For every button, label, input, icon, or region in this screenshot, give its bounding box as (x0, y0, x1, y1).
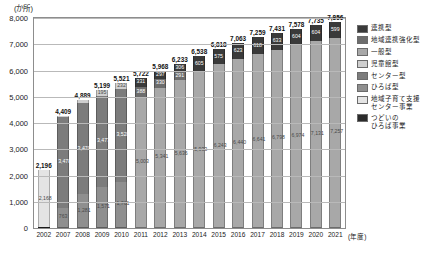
segment-value-label: 763 (58, 215, 68, 220)
bar-2021[interactable]: 7,2575997,856 (329, 22, 341, 228)
x-tick-label-2015: 2015 (211, 231, 226, 238)
gridline (34, 44, 345, 45)
bar-total-label: 5,199 (89, 82, 115, 89)
chart-root: (か所) 8,0007,0006,0005,0004,0003,0002,000… (0, 0, 441, 254)
bar-2011[interactable]: 5,0033883315,722 (135, 78, 147, 228)
x-axis-unit-label: (年度) (348, 231, 366, 241)
segment-value-label: 291 (175, 74, 185, 79)
bar-segment-連携型: 604 (290, 29, 302, 45)
segment-value-label: 6,440 (233, 140, 243, 145)
bar-total-label: 2,196 (31, 162, 57, 169)
segment-value-label: 388 (136, 89, 146, 94)
bar-segment-ひろば型: 763 (57, 208, 69, 228)
legend-swatch-icon (357, 25, 368, 33)
x-tick-label-2011: 2011 (134, 231, 148, 238)
legend-item-3[interactable]: 児童館型 (357, 60, 441, 69)
bar-2010[interactable]: 1,7613,5282325,521 (115, 83, 127, 228)
segment-value-label: 575 (214, 54, 224, 59)
legend-item-6[interactable]: 地域子育て支援 センター事業 (357, 95, 441, 110)
bar-2018[interactable]: 6,7986337,431 (271, 33, 283, 228)
bar-segment-ひろば型: 1,571 (96, 187, 108, 228)
legend-item-0[interactable]: 連携型 (357, 24, 441, 33)
x-tick-label-2013: 2013 (172, 231, 187, 238)
segment-value-label: 599 (330, 27, 340, 32)
segment-value-label: 2,168 (39, 196, 49, 201)
bar-2020[interactable]: 7,1316047,735 (310, 25, 322, 228)
bar-segment-連携型: 633 (271, 33, 283, 50)
legend-item-1[interactable]: 地域連携強化型 (357, 36, 441, 45)
legend-label: 一般型 (371, 48, 392, 56)
legend-label: 児童館型 (371, 60, 399, 68)
bar-segment-児童館型: 28 (57, 116, 69, 117)
bar-segment-一般型: 6,974 (290, 45, 302, 228)
segment-value-label: 1,571 (97, 204, 107, 209)
legend-item-4[interactable]: センター型 (357, 72, 441, 81)
gridline (34, 202, 345, 203)
segment-value-label: 7,257 (330, 130, 340, 135)
segment-value-label: 6,243 (214, 143, 224, 148)
legend-swatch-icon (357, 72, 368, 80)
x-tick-label-2021: 2021 (328, 231, 343, 238)
legend-swatch-icon (357, 60, 368, 68)
bar-segment-一般型: 7,257 (329, 38, 341, 228)
y-tick-label: 8,000 (9, 14, 28, 23)
segment-value-label: 1,281 (78, 208, 88, 213)
bar-segment-一般型: 5,003 (135, 97, 147, 228)
x-tick-label-2012: 2012 (153, 231, 168, 238)
x-tick-label-2020: 2020 (309, 231, 324, 238)
bar-segment-センター型: 3,478 (57, 117, 69, 208)
bar-2007[interactable]: 7633,478284,409 (57, 116, 69, 228)
legend-item-5[interactable]: ひろば型 (357, 83, 441, 92)
y-tick-label: 7,000 (9, 40, 28, 49)
y-tick-label: 6,000 (9, 66, 28, 75)
bar-total-label: 6,538 (186, 48, 212, 55)
segment-value-label: 5,636 (175, 151, 185, 156)
x-axis-tick-labels: 2002200720082009201020112012201320142015… (0, 231, 360, 245)
segment-value-label: 605 (194, 62, 204, 67)
legend-label: 地域子育て支援 センター事業 (371, 95, 420, 110)
legend-swatch-icon (357, 114, 368, 122)
bar-segment-連携型: 575 (213, 49, 225, 64)
y-tick-label: 3,000 (9, 145, 28, 154)
plot-area: 282,1682,1967633,478284,4091,2813,470138… (33, 17, 346, 229)
bar-total-label: 4,409 (50, 108, 76, 115)
x-tick-label-2002: 2002 (36, 231, 51, 238)
bar-segment-連携型: 599 (329, 22, 341, 38)
segment-value-label: 232 (116, 84, 126, 89)
bar-2008[interactable]: 1,2813,4701384,889 (77, 100, 89, 228)
bar-segment-児童館型: 232 (115, 83, 127, 89)
segment-value-label: 3,528 (116, 133, 126, 138)
gridline (34, 176, 345, 177)
bar-segment-児童館型: 138 (77, 100, 89, 104)
segment-value-label: 330 (155, 81, 165, 86)
legend-swatch-icon (357, 96, 368, 104)
bar-2009[interactable]: 1,5713,4771955,199 (96, 90, 108, 228)
segment-value-label: 7,131 (311, 131, 321, 136)
bar-2019[interactable]: 6,9746047,578 (290, 29, 302, 228)
segment-value-label: 6,798 (272, 136, 282, 141)
segment-value-label: 195 (97, 90, 107, 95)
bar-2013[interactable]: 5,6362913066,233 (174, 64, 186, 228)
y-tick-label: 1,000 (9, 197, 28, 206)
bar-segment-地域連携強化型: 291 (174, 72, 186, 80)
bar-segment-連携型: 618 (252, 37, 264, 53)
legend-label: 連携型 (371, 24, 392, 32)
gridline (34, 149, 345, 150)
legend-item-2[interactable]: 一般型 (357, 48, 441, 57)
legend-item-7[interactable]: つどいの ひろば事業 (357, 114, 441, 129)
segment-value-label: 604 (291, 34, 301, 39)
bar-2017[interactable]: 6,6416187,259 (252, 37, 264, 228)
bar-segment-連携型: 604 (310, 25, 322, 41)
bar-segment-連携型: 331 (135, 78, 147, 87)
x-tick-label-2008: 2008 (75, 231, 90, 238)
bar-total-label: 5,968 (147, 63, 173, 70)
bar-total-label: 6,233 (167, 56, 193, 63)
segment-value-label: 5,341 (155, 155, 165, 160)
y-axis-unit-label: (か所) (14, 2, 33, 13)
x-tick-label-2009: 2009 (95, 231, 110, 238)
legend-label: つどいの ひろば事業 (371, 114, 406, 129)
x-tick-label-2007: 2007 (56, 231, 71, 238)
bar-2002[interactable]: 282,1682,196 (38, 170, 50, 228)
segment-value-label: 3,478 (58, 160, 68, 165)
bar-segment-ひろば型: 1,281 (77, 194, 89, 228)
